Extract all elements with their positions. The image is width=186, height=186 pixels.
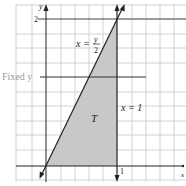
y-axis-label: y: [38, 2, 43, 11]
vertical-line-label: x = 1: [120, 102, 142, 113]
arrow-down-left-icon: [40, 172, 45, 179]
region-label: T: [91, 112, 98, 124]
x-tick-label: 1: [120, 167, 124, 176]
arrow-down-icon: [115, 175, 120, 182]
curve-label-num: y: [93, 35, 98, 44]
region-diagram: y 2 1 x Fixed y x = y 2 x = 1 T: [0, 0, 186, 186]
curve-label-lhs: x =: [75, 38, 90, 49]
y-tick-label: 2: [34, 15, 38, 24]
x-axis-label: x: [180, 171, 185, 179]
curve-label-den: 2: [94, 46, 98, 55]
fixed-y-label: Fixed y: [2, 71, 32, 82]
